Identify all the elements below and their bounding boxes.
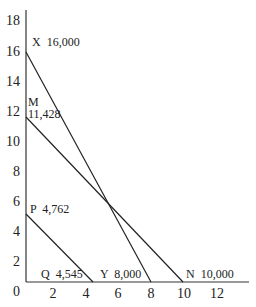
- label-Y: Y 8,000: [100, 267, 141, 281]
- y-tick-18: 18: [6, 13, 20, 28]
- y-tick-12: 12: [6, 104, 20, 119]
- label-P: P 4,762: [30, 202, 69, 216]
- line-XY: [26, 52, 151, 282]
- x-tick-4: 4: [83, 286, 90, 301]
- label-N: N 10,000: [186, 267, 234, 281]
- x-tick-10: 10: [177, 286, 191, 301]
- label-Q: Q 4,545: [41, 267, 83, 281]
- budget-line-chart: 18 16 14 12 10 8 6 4 2 0 2 4 6 8 10 12 X…: [0, 0, 256, 307]
- y-tick-16: 16: [6, 44, 20, 59]
- x-tick-12: 12: [210, 286, 224, 301]
- y-tick-6: 6: [13, 194, 20, 209]
- y-tick-10: 10: [6, 134, 20, 149]
- line-MN: [26, 117, 183, 282]
- label-M-value: 11,428: [28, 107, 61, 121]
- y-tick-8: 8: [13, 164, 20, 179]
- x-tick-6: 6: [115, 286, 122, 301]
- x-tick-8: 8: [148, 286, 155, 301]
- origin-label: 0: [13, 284, 20, 299]
- label-X: X 16,000: [32, 35, 80, 49]
- y-tick-2: 2: [13, 254, 20, 269]
- x-tick-2: 2: [50, 286, 57, 301]
- y-tick-14: 14: [6, 74, 20, 89]
- y-tick-4: 4: [13, 224, 20, 239]
